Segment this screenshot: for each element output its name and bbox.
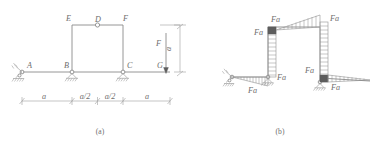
moment-right-column-solid-block (320, 75, 328, 82)
joint-label-E: E (65, 14, 71, 23)
moment-diagram-top-beam (276, 15, 320, 30)
caption-a: (a) (96, 127, 105, 136)
moment-label-left-beam: Fa (247, 86, 257, 95)
diagram-a: A B C D E F G F a (12, 14, 186, 137)
support-bB-hatching (262, 83, 274, 86)
moment-diagram-left-beam (232, 77, 268, 86)
support-bC-leg-2 (320, 84, 324, 88)
joint-label-C: C (127, 61, 133, 70)
support-B-leg-2 (72, 74, 77, 79)
support-C-leg-1 (119, 74, 124, 79)
moment-left-column-outline (268, 27, 276, 77)
moment-diagram-left-column (268, 27, 276, 77)
moment-label-top-left: Fa (270, 15, 280, 24)
figure-container: A B C D E F G F a (0, 0, 386, 149)
diagram-b: Fa (222, 14, 370, 136)
moment-right-column-outline (320, 22, 328, 82)
joint-label-D: D (94, 15, 101, 24)
support-bA-upper-hatching (222, 69, 228, 74)
joint-label-F: F (122, 14, 129, 23)
moment-label-top-right: Fa (329, 14, 339, 23)
vertical-dimension-label: a (164, 47, 173, 51)
support-bB-leg-1 (264, 79, 268, 83)
moment-label-right-column: Fa (304, 66, 314, 75)
roller-circle-bA (228, 79, 231, 82)
support-b-A (222, 69, 234, 87)
moment-left-column-hatch (268, 31, 276, 75)
support-bC-hatching (314, 88, 326, 91)
moment-label-left-column-base: Fa (276, 73, 286, 82)
load-arrow-head (164, 68, 169, 74)
support-bB-leg-2 (268, 79, 272, 83)
support-A (12, 63, 24, 82)
moment-diagram-right-column (320, 22, 328, 82)
support-B-leg-1 (68, 74, 73, 79)
dimension-label-1: a (42, 92, 46, 101)
support-C-leg-2 (123, 74, 128, 79)
dimension-label-2: a/2 (80, 92, 90, 101)
roller-circle-A (18, 74, 21, 77)
support-C-hatching (116, 78, 128, 81)
pin-circle-B (70, 70, 74, 74)
support-bC-leg-1 (316, 84, 320, 88)
joint-label-G: G (157, 61, 163, 70)
load-arrow-F (164, 33, 169, 74)
moment-diagram-right-beam (328, 75, 370, 82)
support-B-hatching (65, 78, 77, 81)
hinge-circle-D (95, 23, 99, 27)
support-A-leg-1 (16, 66, 23, 72)
support-bA-hatching (223, 84, 234, 87)
moment-right-column-hatch (320, 26, 328, 78)
pin-circle-C (121, 70, 125, 74)
moment-label-left-column-top: Fa (253, 28, 263, 37)
moment-top-beam-outline (276, 15, 320, 30)
engineering-figure: A B C D E F G F a (0, 0, 386, 149)
moment-label-right-beam: Fa (330, 83, 340, 92)
moment-right-beam-axis (328, 79, 370, 82)
joint-label-A: A (26, 61, 33, 70)
load-label-F: F (155, 39, 162, 48)
joint-label-B: B (64, 61, 69, 70)
support-A-upper-hatching (12, 63, 18, 69)
support-bA-leg-1 (226, 72, 232, 78)
caption-b: (b) (276, 127, 285, 136)
support-A-hatching (12, 79, 24, 82)
dimension-label-3: a/2 (105, 92, 115, 101)
dimension-label-4: a (145, 92, 149, 101)
moment-left-column-solid-block (268, 27, 276, 34)
frame-members (22, 25, 170, 72)
